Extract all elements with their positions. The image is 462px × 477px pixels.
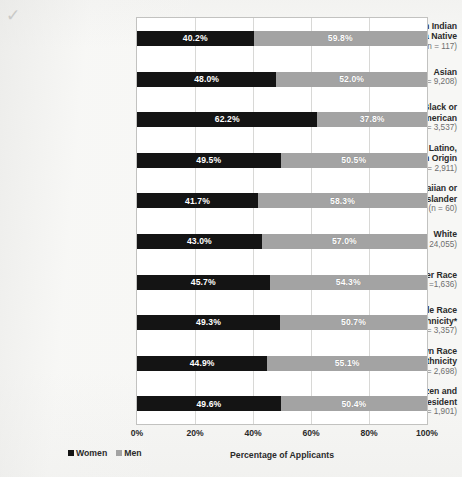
bar-value-label: 37.8% [360,115,385,124]
legend-item-men: Men [116,449,141,458]
x-tick-label: 0% [131,428,143,438]
x-tick-label: 80% [360,428,377,438]
chart-row: 44.9%55.1% [137,343,427,384]
bar-value-label: 49.3% [196,318,221,327]
bar-segment-women: 49.3% [137,315,280,330]
stacked-bar: 49.6%50.4% [137,396,427,411]
bar-value-label: 58.3% [330,197,355,206]
bar-segment-men: 57.0% [262,234,427,249]
x-axis-title: Percentage of Applicants [136,450,428,460]
bar-value-label: 48.0% [194,75,219,84]
chart-row: 43.0%57.0% [137,221,427,262]
stacked-bar: 45.7%54.3% [137,275,427,290]
bar-value-label: 54.3% [336,278,361,287]
x-tick-label: 40% [244,428,261,438]
bar-segment-men: 59.8% [254,31,427,46]
chart-row: 62.2%37.8% [137,99,427,140]
bar-value-label: 55.1% [335,359,360,368]
bar-segment-men: 50.7% [280,315,427,330]
x-axis-tick-labels: 0%20%40%60%80%100% [136,428,428,442]
stacked-bar: 49.3%50.7% [137,315,427,330]
chart-row: 49.3%50.7% [137,302,427,343]
legend-label: Men [124,449,141,458]
bar-value-label: 52.0% [339,75,364,84]
bar-segment-women: 49.6% [137,396,281,411]
bar-value-label: 59.8% [328,34,353,43]
legend-swatch [68,450,74,456]
bar-segment-men: 55.1% [267,356,427,371]
bar-value-label: 43.0% [187,237,212,246]
bar-segment-women: 62.2% [137,112,317,127]
legend-label: Women [76,449,107,458]
chart-row: 41.7%58.3% [137,180,427,221]
plot-area: 40.2%59.8%48.0%52.0%62.2%37.8%49.5%50.5%… [136,17,428,425]
chart-row: 40.2%59.8% [137,18,427,59]
stacked-bar: 40.2%59.8% [137,31,427,46]
chart-row: 48.0%52.0% [137,59,427,100]
bar-value-label: 49.5% [196,156,221,165]
bar-value-label: 49.6% [196,400,221,409]
stacked-bar-chart: American Indian or Alaska Native(n = 117… [0,0,462,477]
legend-swatch [116,450,122,456]
bar-segment-men: 50.5% [281,153,427,168]
bar-segment-women: 43.0% [137,234,262,249]
bar-value-label: 57.0% [332,237,357,246]
stacked-bar: 41.7%58.3% [137,193,427,208]
bar-value-label: 41.7% [185,197,210,206]
bar-segment-men: 58.3% [258,193,427,208]
stacked-bar: 49.5%50.5% [137,153,427,168]
stacked-bar: 44.9%55.1% [137,356,427,371]
chart-row: 49.6%50.4% [137,383,427,424]
bar-value-label: 50.5% [341,156,366,165]
bar-value-label: 44.9% [190,359,215,368]
x-tick-label: 60% [302,428,319,438]
chart-row: 45.7%54.3% [137,262,427,303]
bar-value-label: 40.2% [183,34,208,43]
bar-segment-men: 54.3% [270,275,427,290]
bar-segment-men: 52.0% [276,72,427,87]
chart-page: ✓ American Indian or Alaska Native(n = 1… [0,0,462,477]
x-tick-label: 100% [416,428,438,438]
bar-segment-women: 44.9% [137,356,267,371]
chart-legend: WomenMen [68,449,142,458]
bar-value-label: 62.2% [215,115,240,124]
bar-segment-women: 40.2% [137,31,254,46]
stacked-bar: 62.2%37.8% [137,112,427,127]
bar-segment-women: 45.7% [137,275,270,290]
legend-item-women: Women [68,449,107,458]
chart-row: 49.5%50.5% [137,140,427,181]
bar-value-label: 50.7% [341,318,366,327]
bar-value-label: 45.7% [191,278,216,287]
bar-value-label: 50.4% [341,400,366,409]
x-tick-label: 20% [186,428,203,438]
bar-segment-men: 50.4% [281,396,427,411]
stacked-bar: 48.0%52.0% [137,72,427,87]
bar-segment-women: 48.0% [137,72,276,87]
bar-segment-women: 41.7% [137,193,258,208]
bar-segment-women: 49.5% [137,153,281,168]
bar-segment-men: 37.8% [317,112,427,127]
stacked-bar: 43.0%57.0% [137,234,427,249]
